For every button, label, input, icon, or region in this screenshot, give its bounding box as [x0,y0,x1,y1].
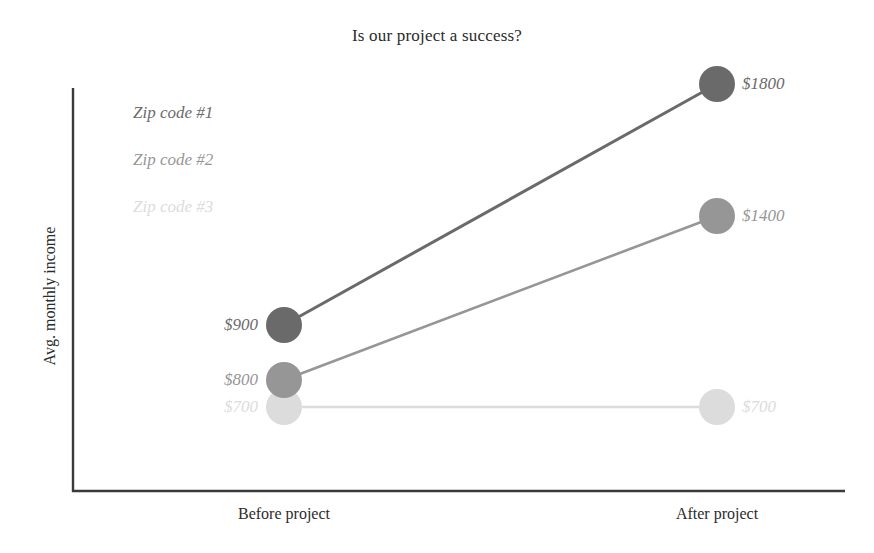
series-zip-code-3 [266,389,735,425]
series-zip-code-1 [266,66,735,343]
marker-end [699,389,735,425]
data-label-zip1-after: $1800 [742,74,785,94]
series-zip-code-2 [266,198,735,398]
marker-end [699,198,735,234]
data-label-zip3-after: $700 [742,397,776,417]
legend-item-zip-code-3: Zip code #3 [133,198,213,215]
chart-canvas: Is our project a success? Avg. monthly i… [0,0,874,553]
marker-start [266,362,302,398]
slope-line [284,216,717,380]
marker-end [699,66,735,102]
slope-line [284,84,717,325]
data-label-zip1-before: $900 [224,315,258,335]
data-label-zip2-before: $800 [224,370,258,390]
legend-item-zip-code-1: Zip code #1 [133,104,213,121]
marker-start [266,307,302,343]
data-label-zip2-after: $1400 [742,206,785,226]
data-label-zip3-before: $700 [224,397,258,417]
chart-legend: Zip code #1 Zip code #2 Zip code #3 [133,104,213,245]
legend-item-zip-code-2: Zip code #2 [133,151,213,168]
